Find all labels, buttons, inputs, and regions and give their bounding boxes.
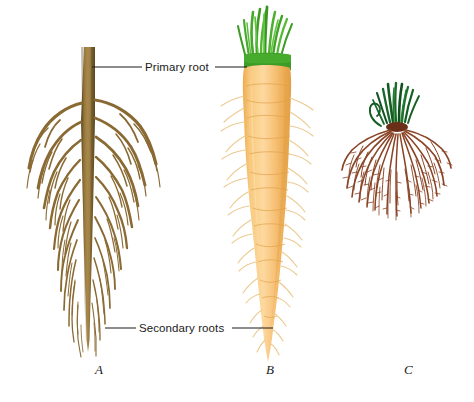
carrot-body (243, 65, 291, 362)
panel-letter-c: C (404, 362, 413, 378)
carrot-crown-highlight (244, 54, 291, 64)
label-secondary-roots: Secondary roots (139, 322, 224, 334)
lateral-roots-left (27, 103, 83, 357)
fibrous-plant-leaves (370, 83, 419, 126)
figure-artwork (0, 0, 474, 402)
panel-letter-b: B (266, 362, 274, 378)
lateral-roots-right (92, 100, 160, 356)
root-systems-figure: Primary root Secondary roots A B C (0, 0, 474, 402)
taproot-diagram-a (27, 47, 160, 357)
carrot-leaves (238, 7, 292, 58)
fibrous-roots (342, 130, 451, 220)
panel-letter-a: A (95, 362, 103, 378)
carrot-b (221, 7, 313, 362)
fibrous-root-plant-c (342, 83, 452, 220)
label-primary-root: Primary root (145, 61, 209, 73)
